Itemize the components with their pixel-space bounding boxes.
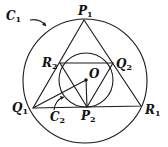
geometry-diagram: C1 P1 R2 Q2 O Q1 C2 P2 R1 bbox=[0, 0, 168, 147]
center-point-o bbox=[84, 78, 88, 82]
label-q1: Q1 bbox=[12, 101, 28, 116]
label-q2: Q2 bbox=[116, 57, 132, 72]
label-r2: R2 bbox=[41, 56, 58, 71]
label-p2: P2 bbox=[80, 109, 96, 124]
label-o: O bbox=[89, 67, 100, 81]
label-c1: C1 bbox=[6, 9, 21, 24]
label-p1: P1 bbox=[77, 4, 93, 19]
label-c2: C2 bbox=[50, 110, 65, 125]
segment-o-p2 bbox=[86, 80, 87, 107]
c2-arrowhead-icon bbox=[60, 96, 64, 100]
label-r1: R1 bbox=[144, 103, 161, 118]
